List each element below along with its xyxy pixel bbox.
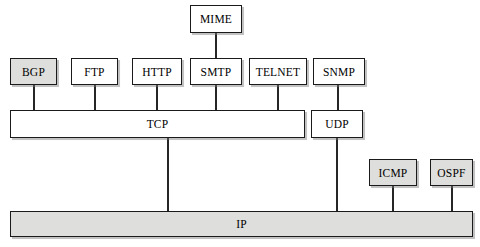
protocol-label-ftp: FTP: [84, 66, 104, 78]
protocol-label-ospf: OSPF: [437, 167, 465, 179]
protocol-box-snmp: SNMP: [313, 58, 365, 85]
protocol-box-telnet: TELNET: [249, 58, 307, 85]
connector-ftp-to-tcp: [94, 85, 96, 110]
connector-snmp-to-udp: [337, 85, 339, 110]
connector-mime-to-smtp: [215, 33, 217, 58]
connector-http-to-tcp: [156, 85, 158, 110]
protocol-box-ftp: FTP: [71, 58, 118, 85]
connector-smtp-to-tcp: [215, 85, 217, 110]
protocol-label-smtp: SMTP: [201, 66, 232, 78]
connector-ospf-to-ip: [451, 186, 453, 211]
connector-tcp-to-ip: [167, 138, 169, 211]
protocol-label-ip: IP: [236, 218, 247, 230]
connector-udp-to-ip: [336, 138, 338, 211]
protocol-box-smtp: SMTP: [190, 58, 242, 85]
protocol-box-mime: MIME: [190, 5, 242, 33]
protocol-box-bgp: BGP: [10, 58, 57, 85]
protocol-label-mime: MIME: [200, 13, 232, 25]
protocol-box-icmp: ICMP: [369, 159, 417, 186]
protocol-box-tcp: TCP: [10, 110, 305, 138]
connector-icmp-to-ip: [392, 186, 394, 211]
protocol-box-http: HTTP: [132, 58, 182, 85]
protocol-label-http: HTTP: [142, 66, 172, 78]
connector-bgp-to-tcp: [33, 85, 35, 110]
protocol-box-ospf: OSPF: [430, 159, 473, 186]
protocol-stack-diagram: MIMEBGPFTPHTTPSMTPTELNETSNMPTCPUDPICMPOS…: [0, 0, 480, 247]
protocol-label-snmp: SNMP: [323, 66, 355, 78]
protocol-label-udp: UDP: [325, 118, 349, 130]
protocol-box-udp: UDP: [311, 110, 363, 138]
protocol-label-telnet: TELNET: [256, 66, 301, 78]
protocol-label-tcp: TCP: [147, 118, 169, 130]
protocol-label-bgp: BGP: [22, 66, 45, 78]
connector-telnet-to-tcp: [277, 85, 279, 110]
protocol-box-ip: IP: [10, 211, 473, 237]
protocol-label-icmp: ICMP: [379, 167, 408, 179]
